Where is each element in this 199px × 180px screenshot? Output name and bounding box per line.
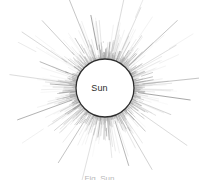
sun-diagram: Sun Fig. Sun	[0, 0, 199, 180]
sun-core-circle	[76, 59, 134, 117]
sun-illustration	[0, 0, 199, 180]
figure-caption: Fig. Sun	[0, 173, 199, 180]
